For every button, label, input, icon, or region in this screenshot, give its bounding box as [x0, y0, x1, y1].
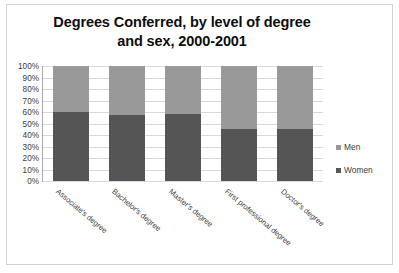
y-axis-tick-label: 30%: [23, 142, 39, 151]
y-axis-tick-label: 80%: [23, 85, 39, 94]
bar-segment-women[interactable]: [277, 129, 313, 181]
bar-segment-women[interactable]: [165, 114, 201, 181]
y-axis-tick-label: 20%: [23, 154, 39, 163]
bar-segment-women[interactable]: [53, 112, 89, 181]
bar-segment-men[interactable]: [221, 66, 257, 129]
bar-slot: [211, 66, 267, 181]
x-axis-category-label: Master's degree: [167, 187, 214, 229]
x-axis-labels: Associate's degreeBachelor's degreeMaste…: [42, 183, 323, 263]
y-axis-tick-label: 100%: [18, 62, 39, 71]
legend-swatch-women-icon: [336, 168, 341, 173]
bar-slot: [155, 66, 211, 181]
legend-item-men[interactable]: Men: [336, 142, 392, 152]
stacked-bar[interactable]: [109, 66, 145, 181]
bar-segment-men[interactable]: [165, 66, 201, 114]
x-label-slot: First professional degree: [211, 183, 267, 263]
gridline: 0%: [43, 181, 323, 182]
y-axis-tick-label: 50%: [23, 119, 39, 128]
y-axis-tick-label: 10%: [23, 165, 39, 174]
bar-segment-men[interactable]: [109, 66, 145, 115]
bar-slot: [99, 66, 155, 181]
bar-segment-men[interactable]: [53, 66, 89, 112]
plot-wrapper: 100%90%80%70%60%50%40%30%20%10%0% Associ…: [0, 0, 399, 273]
x-label-slot: Doctor's degree: [267, 183, 323, 263]
legend-label-women: Women: [344, 165, 373, 175]
bar-segment-men[interactable]: [277, 66, 313, 129]
stacked-bar[interactable]: [277, 66, 313, 181]
bar-slot: [267, 66, 323, 181]
stacked-bar[interactable]: [53, 66, 89, 181]
y-axis-tick-label: 70%: [23, 96, 39, 105]
y-axis-tick-label: 40%: [23, 131, 39, 140]
x-label-slot: Master's degree: [154, 183, 210, 263]
x-label-slot: Associate's degree: [42, 183, 98, 263]
legend-label-men: Men: [344, 142, 360, 152]
stacked-bar[interactable]: [165, 66, 201, 181]
legend-item-women[interactable]: Women: [336, 165, 392, 175]
bars-group: [43, 66, 323, 181]
x-axis-category-label: Doctor's degree: [279, 187, 326, 228]
bar-segment-women[interactable]: [221, 129, 257, 181]
y-axis-tick-label: 0%: [27, 177, 39, 186]
chart-legend: Men Women: [336, 142, 392, 188]
bar-slot: [43, 66, 99, 181]
bar-segment-women[interactable]: [109, 115, 145, 181]
y-axis-tick-label: 60%: [23, 108, 39, 117]
legend-swatch-men-icon: [336, 145, 341, 150]
x-label-slot: Bachelor's degree: [98, 183, 154, 263]
chart-screenshot: Degrees Conferred, by level of degree an…: [0, 0, 399, 273]
y-axis-tick-label: 90%: [23, 73, 39, 82]
stacked-bar[interactable]: [221, 66, 257, 181]
plot-area: 100%90%80%70%60%50%40%30%20%10%0%: [42, 66, 323, 182]
